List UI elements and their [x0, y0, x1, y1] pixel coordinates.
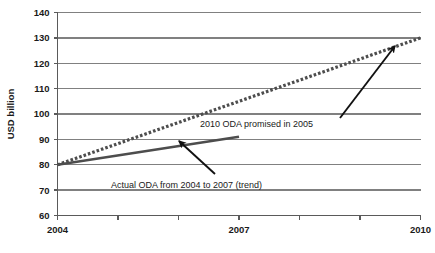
annotation-label: Actual ODA from 2004 to 2007 (trend): [111, 180, 262, 190]
y-axis-title: USD billion: [5, 88, 16, 139]
y-tick-label: 140: [34, 7, 50, 18]
chart-container: 60708090100110120130140 200420072010 201…: [0, 0, 435, 253]
line-chart: 60708090100110120130140 200420072010 201…: [0, 0, 435, 253]
y-tick-label: 80: [39, 159, 50, 170]
y-tick-label: 70: [39, 185, 50, 196]
annotation-label: 2010 ODA promised in 2005: [200, 119, 313, 129]
y-tick-label: 90: [39, 134, 50, 145]
x-tick-label: 2010: [410, 224, 431, 235]
y-tick-label: 130: [34, 32, 50, 43]
y-tick-label: 60: [39, 210, 50, 221]
x-tick-label: 2004: [47, 224, 69, 235]
y-tick-label: 110: [34, 83, 49, 94]
y-tick-label: 100: [34, 108, 50, 119]
x-tick-label: 2007: [228, 224, 249, 235]
y-tick-label: 120: [34, 58, 50, 69]
y-axis-title-group: USD billion: [5, 88, 16, 139]
